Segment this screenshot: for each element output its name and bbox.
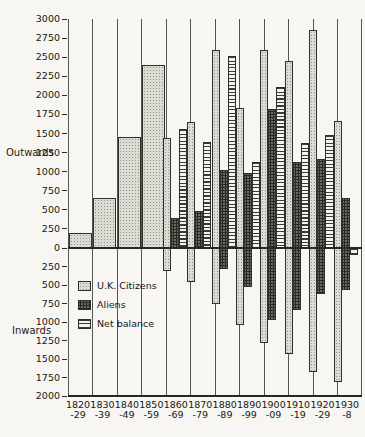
y-tick-label: 250 — [20, 261, 60, 272]
legend-item-uk-citizens: U.K. Citizens — [78, 276, 157, 295]
x-axis-label: 1930 -8 — [332, 400, 362, 420]
y-tick-label: 2250 — [20, 70, 60, 81]
y-axis-tick — [62, 285, 67, 286]
legend-swatch-uk-citizens — [78, 281, 91, 291]
bar-uk-citizens-1870-79-inward — [187, 248, 195, 282]
decade-gridline — [361, 19, 362, 396]
bar-uk-citizens-1870-79-outward — [187, 122, 195, 248]
legend-item-net-balance: Net balance — [78, 314, 157, 333]
bar-aliens-1920-29-outward — [317, 159, 325, 248]
y-tick-label: 0 — [20, 242, 60, 253]
bar-net-balance-1910-19 — [301, 143, 309, 248]
y-axis-tick — [62, 114, 67, 115]
y-tick-label: 1000 — [20, 166, 60, 177]
y-axis-tick — [62, 377, 67, 378]
bar-uk-citizens-1860-69-outward — [163, 138, 171, 248]
bar-uk-citizens-1910-19-inward — [285, 248, 293, 354]
bar-net-balance-1870-79 — [203, 142, 211, 248]
bar-aliens-1870-79-outward — [195, 211, 203, 248]
y-tick-label: 1500 — [20, 353, 60, 364]
y-tick-label: 500 — [20, 204, 60, 215]
zero-axis-line — [68, 247, 362, 249]
y-axis-tick — [62, 209, 67, 210]
bar-net-balance-1920-29 — [325, 135, 333, 248]
bar-uk-citizens-1880-89-outward — [212, 50, 220, 248]
bar-uk-citizens-1820-29-outward — [69, 233, 92, 248]
y-axis-tick — [62, 133, 67, 134]
y-axis-tick — [62, 57, 67, 58]
y-tick-label: 1500 — [20, 128, 60, 139]
y-axis-tick — [62, 95, 67, 96]
bar-aliens-1930-8-inward — [342, 248, 350, 290]
y-axis-tick — [62, 19, 67, 20]
bar-net-balance-1860-69 — [179, 129, 187, 248]
y-tick-label: 500 — [20, 279, 60, 290]
bar-uk-citizens-1840-49-outward — [118, 137, 141, 248]
y-axis-tick — [62, 322, 67, 323]
bar-aliens-1890-99-outward — [244, 173, 252, 248]
y-tick-label: 2000 — [20, 390, 60, 401]
bar-uk-citizens-1910-19-outward — [285, 61, 293, 248]
y-tick-label: 750 — [20, 185, 60, 196]
bar-aliens-1900-09-inward — [268, 248, 276, 320]
bar-uk-citizens-1900-09-inward — [260, 248, 268, 343]
legend-label-uk-citizens: U.K. Citizens — [97, 280, 157, 291]
bar-net-balance-1890-99 — [252, 162, 260, 248]
bar-aliens-1920-29-inward — [317, 248, 325, 294]
y-tick-label: 1750 — [20, 372, 60, 383]
legend-label-net-balance: Net balance — [97, 318, 154, 329]
bar-aliens-1930-8-outward — [342, 198, 350, 248]
y-tick-label: 2750 — [20, 32, 60, 43]
legend-swatch-aliens — [78, 300, 91, 310]
legend-swatch-net-balance — [78, 319, 91, 329]
y-tick-label: 1250 — [20, 335, 60, 346]
y-tick-label: 250 — [20, 223, 60, 234]
y-axis-tick — [62, 76, 67, 77]
decade-gridline — [68, 19, 69, 396]
y-tick-label: 3000 — [20, 13, 60, 24]
bar-aliens-1860-69-outward — [171, 218, 179, 248]
y-axis-tick — [62, 228, 67, 229]
legend: U.K. Citizens Aliens Net balance — [78, 276, 157, 333]
y-axis-tick — [62, 190, 67, 191]
y-tick-label: 1250 — [20, 147, 60, 158]
bar-aliens-1890-99-inward — [244, 248, 252, 287]
bottom-axis-line — [68, 395, 362, 397]
bar-uk-citizens-1900-09-outward — [260, 50, 268, 248]
bar-uk-citizens-1890-99-inward — [236, 248, 244, 325]
y-tick-label: 2500 — [20, 51, 60, 62]
bar-aliens-1910-19-inward — [293, 248, 301, 310]
y-tick-label: 750 — [20, 298, 60, 309]
y-axis-tick — [62, 38, 67, 39]
bar-uk-citizens-1920-29-inward — [309, 248, 317, 372]
bar-uk-citizens-1830-39-outward — [93, 198, 116, 248]
bar-aliens-1880-89-outward — [220, 170, 228, 248]
bar-net-balance-1900-09 — [276, 87, 284, 248]
bar-net-balance-1880-89 — [228, 56, 236, 248]
bar-uk-citizens-1920-29-outward — [309, 30, 317, 248]
bar-uk-citizens-1930-8-outward — [334, 121, 342, 248]
bar-uk-citizens-1850-59-outward — [142, 65, 165, 248]
y-tick-label: 1000 — [20, 316, 60, 327]
y-axis-tick — [62, 340, 67, 341]
y-axis-tick — [62, 359, 67, 360]
bar-uk-citizens-1860-69-inward — [163, 248, 171, 271]
y-axis-tick — [62, 303, 67, 304]
bar-aliens-1900-09-outward — [268, 109, 276, 248]
y-axis-tick — [62, 396, 67, 397]
migration-bar-chart: Outwards Inwards U.K. Citizens Aliens Ne… — [0, 0, 365, 437]
y-axis-tick — [62, 248, 67, 249]
bar-uk-citizens-1880-89-inward — [212, 248, 220, 304]
y-axis-tick — [62, 152, 67, 153]
legend-label-aliens: Aliens — [97, 299, 126, 310]
y-axis-tick — [62, 266, 67, 267]
y-tick-label: 1750 — [20, 108, 60, 119]
bar-aliens-1910-19-outward — [293, 162, 301, 248]
bar-uk-citizens-1890-99-outward — [236, 108, 244, 248]
y-axis-tick — [62, 171, 67, 172]
y-tick-label: 2000 — [20, 89, 60, 100]
bar-uk-citizens-1930-8-inward — [334, 248, 342, 382]
legend-item-aliens: Aliens — [78, 295, 157, 314]
bar-aliens-1880-89-inward — [220, 248, 228, 269]
